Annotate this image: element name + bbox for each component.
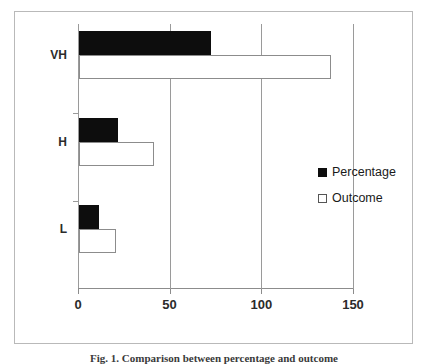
x-tick-mark-0 <box>78 289 79 294</box>
x-tick-mark-50 <box>170 289 171 294</box>
legend-entry-percentage: Percentage <box>318 165 414 179</box>
x-axis-line <box>78 288 353 289</box>
legend-label-percentage: Percentage <box>332 165 396 179</box>
filled-square-icon <box>318 168 327 177</box>
x-tick-label-0: 0 <box>74 297 81 312</box>
gridline-150 <box>353 24 354 289</box>
legend-entry-outcome: Outcome <box>318 191 414 205</box>
bar-l-outcome <box>79 229 116 253</box>
open-square-icon <box>318 194 327 203</box>
y-tick-mark-h-l <box>73 201 78 202</box>
bar-vh-outcome <box>79 55 331 79</box>
x-tick-mark-150 <box>353 289 354 294</box>
x-tick-label-50: 50 <box>162 297 176 312</box>
chart-plot-area: VH H L 0 50 100 150 <box>78 24 353 289</box>
bar-h-outcome <box>79 142 154 166</box>
bar-h-percentage <box>79 118 118 142</box>
y-tick-mark-vh-h <box>73 113 78 114</box>
x-tick-label-150: 150 <box>342 297 364 312</box>
bar-l-percentage <box>79 205 99 229</box>
y-category-label-vh: VH <box>50 48 67 62</box>
y-category-label-l: L <box>60 222 67 236</box>
legend-label-outcome: Outcome <box>332 191 383 205</box>
chart-legend: Percentage Outcome <box>318 165 414 217</box>
y-category-label-h: H <box>58 135 67 149</box>
bar-vh-percentage <box>79 31 211 55</box>
figure-caption: Fig. 1. Comparison between percentage an… <box>0 352 428 364</box>
x-tick-mark-100 <box>261 289 262 294</box>
x-tick-label-100: 100 <box>250 297 272 312</box>
figure-frame: VH H L 0 50 100 150 Percentage Outcome <box>14 11 413 344</box>
